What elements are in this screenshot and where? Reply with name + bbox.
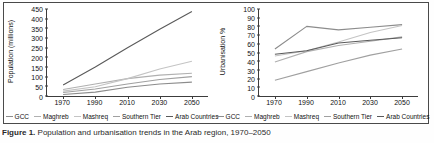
legend-entry[interactable]: Southern Tier: [324, 113, 372, 120]
legend-line-icon: [74, 116, 81, 117]
legend-line-icon: [285, 116, 292, 117]
x-tick-label: 2050: [394, 99, 410, 107]
figure-caption-text: Population and urbanisation trends in th…: [38, 128, 271, 137]
legend-line-icon: [166, 116, 173, 117]
x-tick-label: 1970: [266, 99, 282, 107]
legend-line-icon: [377, 116, 384, 117]
legend-label: GCC: [15, 113, 29, 120]
y-tick-mark: [45, 76, 48, 77]
legend-label: Mashreq: [294, 113, 319, 120]
chart-urbanisation: Urbanisation % 0102030405060708090100 19…: [218, 5, 428, 123]
x-tick-label: 2050: [184, 99, 200, 107]
y-tick-label: 100: [243, 6, 255, 13]
y-tick-label: 70: [247, 32, 255, 39]
y-tick-mark: [45, 57, 48, 58]
y-axis-ticklabels-population: 050100150200250300350400450: [18, 9, 44, 97]
line-series-urbanisation: [259, 9, 418, 96]
legend-entry[interactable]: Southern Tier: [113, 113, 161, 120]
legend-label: Maghreb: [254, 113, 280, 120]
y-tick-mark: [257, 69, 260, 70]
chart-population: Population (millions) 050100150200250300…: [6, 5, 218, 123]
y-tick-label: 30: [247, 67, 255, 74]
y-axis-title-population-label: Population (millions): [8, 19, 15, 82]
x-tick-label: 1990: [298, 99, 314, 107]
y-tick-label: 150: [31, 64, 43, 71]
y-tick-mark: [257, 26, 260, 27]
y-tick-label: 50: [35, 84, 43, 91]
y-tick-label: 350: [31, 25, 43, 32]
legend-label: Arab Countries: [175, 113, 218, 120]
legend-entry[interactable]: Mashreq: [74, 113, 108, 120]
legend-entry[interactable]: GCC: [6, 113, 29, 120]
x-tick-label: 2010: [330, 99, 346, 107]
y-tick-mark: [257, 17, 260, 18]
y-tick-label: 0: [251, 94, 255, 101]
y-tick-mark: [257, 61, 260, 62]
x-tick-label: 2010: [119, 99, 135, 107]
y-tick-mark: [45, 38, 48, 39]
figure-frame: Population (millions) 050100150200250300…: [3, 2, 429, 124]
y-tick-mark: [257, 9, 260, 10]
legend-label: Maghreb: [43, 113, 69, 120]
x-tick-label: 1970: [54, 99, 70, 107]
y-tick-label: 250: [31, 45, 43, 52]
legend-line-icon: [324, 116, 331, 117]
y-tick-mark: [257, 87, 260, 88]
y-axis-title-population: Population (millions): [5, 5, 17, 97]
y-tick-mark: [45, 67, 48, 68]
y-tick-mark: [257, 96, 260, 97]
legend-entry[interactable]: Maghreb: [245, 113, 280, 120]
y-tick-label: 50: [247, 50, 255, 57]
y-tick-mark: [45, 96, 48, 97]
legend-label: Mashreq: [83, 113, 108, 120]
y-tick-label: 0: [39, 94, 43, 101]
figure-caption-prefix: Figure 1.: [2, 128, 35, 137]
y-tick-label: 100: [31, 74, 43, 81]
y-tick-label: 450: [31, 6, 43, 13]
legend-label: Southern Tier: [122, 113, 161, 120]
legend-line-icon: [217, 116, 224, 117]
legend-label: Southern Tier: [333, 113, 372, 120]
y-tick-label: 10: [247, 85, 255, 92]
series-line: [275, 49, 402, 80]
legend-entry[interactable]: Mashreq: [285, 113, 319, 120]
x-tick-label: 2030: [152, 99, 168, 107]
legend-urbanisation: GCCMaghrebMashreqSouthern TierArab Count…: [218, 110, 428, 122]
y-tick-mark: [257, 43, 260, 44]
plot-area-population: [46, 9, 208, 97]
series-line: [275, 37, 402, 62]
charts-row: Population (millions) 050100150200250300…: [4, 3, 428, 123]
plot-area-urbanisation: [258, 9, 418, 97]
y-tick-mark: [257, 35, 260, 36]
y-tick-mark: [45, 47, 48, 48]
y-tick-label: 60: [247, 41, 255, 48]
y-axis-title-urbanisation-label: Urbanisation %: [220, 27, 227, 74]
x-tick-label: 1990: [87, 99, 103, 107]
legend-entry[interactable]: Maghreb: [34, 113, 69, 120]
legend-entry[interactable]: Arab Countries: [166, 113, 218, 120]
legend-entry[interactable]: Arab Countries: [377, 113, 429, 120]
legend-label: GCC: [226, 113, 240, 120]
y-tick-mark: [45, 18, 48, 19]
y-axis-title-urbanisation: Urbanisation %: [217, 5, 229, 97]
y-tick-label: 400: [31, 15, 43, 22]
y-axis-ticklabels-urbanisation: 0102030405060708090100: [230, 9, 256, 97]
legend-line-icon: [245, 116, 252, 117]
legend-label: Arab Countries: [386, 113, 429, 120]
y-tick-mark: [45, 86, 48, 87]
legend-population: GCCMaghrebMashreqSouthern TierArab Count…: [6, 110, 218, 122]
y-tick-mark: [257, 78, 260, 79]
y-tick-label: 40: [247, 58, 255, 65]
legend-line-icon: [34, 116, 41, 117]
y-tick-label: 200: [31, 54, 43, 61]
y-tick-label: 300: [31, 35, 43, 42]
legend-line-icon: [6, 116, 13, 117]
line-series-population: [47, 9, 208, 96]
legend-line-icon: [113, 116, 120, 117]
y-tick-mark: [257, 52, 260, 53]
y-tick-label: 80: [247, 23, 255, 30]
legend-entry[interactable]: GCC: [217, 113, 240, 120]
x-tick-label: 2030: [362, 99, 378, 107]
y-tick-label: 90: [247, 14, 255, 21]
figure-caption: Figure 1. Population and urbanisation tr…: [2, 128, 432, 142]
